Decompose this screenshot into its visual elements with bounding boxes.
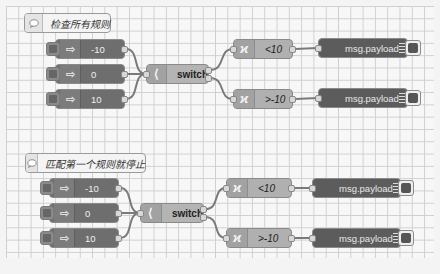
inject-trigger-button[interactable] (40, 231, 54, 245)
inject-arrow-icon: ⇨ (54, 179, 75, 197)
input-port[interactable] (223, 185, 230, 192)
switch-label: switch (162, 208, 203, 219)
function-label: <10 (248, 183, 275, 194)
inject-node[interactable]: ⇨ -10 (55, 39, 125, 59)
switch-node[interactable]: ⟨ switch (140, 203, 204, 223)
inject-label: -10 (81, 44, 105, 55)
switch-icon: ⟨ (141, 204, 162, 222)
comment-node[interactable]: 检查所有规则 (24, 13, 111, 33)
debug-node[interactable]: msg.payload (318, 38, 408, 58)
function-node[interactable]: ϰ <10 (233, 39, 293, 59)
input-port[interactable] (315, 45, 322, 52)
function-node[interactable]: ϰ >-10 (233, 89, 293, 109)
output-port-2[interactable] (200, 214, 207, 221)
output-port-1[interactable] (200, 206, 207, 213)
debug-toggle-button[interactable] (405, 90, 421, 106)
inject-label: -10 (75, 183, 99, 194)
function-label: <10 (255, 44, 282, 55)
debug-toggle-button[interactable] (398, 180, 414, 196)
debug-toggle-button[interactable] (398, 230, 414, 246)
input-port[interactable] (315, 95, 322, 102)
inject-node[interactable]: ⇨ -10 (49, 178, 119, 198)
input-port[interactable] (309, 235, 316, 242)
function-icon: ϰ (227, 229, 248, 247)
inject-trigger-button[interactable] (46, 92, 60, 106)
debug-toggle-button[interactable] (405, 40, 421, 56)
output-port[interactable] (289, 46, 296, 53)
function-icon: ϰ (227, 179, 248, 197)
input-port[interactable] (309, 185, 316, 192)
output-port[interactable] (115, 210, 122, 217)
comment-icon (26, 154, 38, 172)
comment-label: 匹配第一个规则就停止 (38, 156, 145, 171)
output-port[interactable] (115, 185, 122, 192)
inject-arrow-icon: ⇨ (60, 40, 81, 58)
output-port[interactable] (288, 235, 295, 242)
debug-node[interactable]: msg.payload (312, 178, 401, 198)
inject-label: 0 (75, 208, 90, 219)
inject-label: 0 (81, 69, 96, 80)
switch-node[interactable]: ⟨ switch (146, 64, 209, 84)
function-node[interactable]: ϰ >-10 (226, 228, 292, 248)
inject-node[interactable]: ⇨ 0 (55, 64, 125, 84)
input-port[interactable] (230, 96, 237, 103)
debug-label: msg.payload (313, 233, 393, 244)
debug-node[interactable]: msg.payload (318, 88, 408, 108)
function-node[interactable]: ϰ <10 (226, 178, 292, 198)
wire (120, 213, 140, 238)
comment-icon (25, 14, 43, 32)
input-port[interactable] (137, 210, 144, 217)
debug-label: msg.payload (313, 183, 393, 194)
inject-node[interactable]: ⇨ 10 (49, 228, 119, 248)
comment-node[interactable]: 匹配第一个规则就停止 (25, 153, 146, 173)
function-icon: ϰ (234, 40, 255, 58)
comment-label: 检查所有规则 (43, 16, 110, 31)
inject-node[interactable]: ⇨ 0 (49, 203, 119, 223)
wire (126, 49, 146, 74)
debug-node[interactable]: msg.payload (312, 228, 401, 248)
inject-arrow-icon: ⇨ (54, 204, 75, 222)
output-port[interactable] (121, 71, 128, 78)
inject-trigger-button[interactable] (40, 181, 54, 195)
output-port[interactable] (288, 185, 295, 192)
debug-label: msg.payload (319, 93, 399, 104)
function-label: >-10 (248, 233, 278, 244)
inject-trigger-button[interactable] (46, 67, 60, 81)
inject-trigger-button[interactable] (40, 206, 54, 220)
output-port[interactable] (121, 46, 128, 53)
function-icon: ϰ (234, 90, 255, 108)
inject-label: 10 (81, 94, 102, 105)
output-port-2[interactable] (205, 75, 212, 82)
inject-arrow-icon: ⇨ (60, 90, 81, 108)
switch-label: switch (167, 69, 208, 80)
input-port[interactable] (230, 46, 237, 53)
input-port[interactable] (223, 235, 230, 242)
wire (120, 188, 140, 213)
inject-node[interactable]: ⇨ 10 (55, 89, 125, 109)
inject-arrow-icon: ⇨ (54, 229, 75, 247)
wire (126, 74, 146, 99)
input-port[interactable] (143, 71, 150, 78)
output-port-1[interactable] (205, 67, 212, 74)
debug-label: msg.payload (319, 43, 399, 54)
output-port[interactable] (115, 235, 122, 242)
output-port[interactable] (121, 96, 128, 103)
inject-trigger-button[interactable] (46, 42, 60, 56)
output-port[interactable] (289, 96, 296, 103)
function-label: >-10 (255, 94, 285, 105)
inject-arrow-icon: ⇨ (60, 65, 81, 83)
inject-label: 10 (75, 233, 96, 244)
